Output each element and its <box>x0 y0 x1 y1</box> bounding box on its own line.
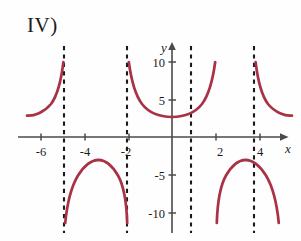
curve-branch-right-outer-upper <box>256 62 292 116</box>
y-axis-arrow <box>168 42 176 50</box>
y-tick-label-neg10: -10 <box>148 207 165 221</box>
x-tick-label-pos4: 4 <box>257 145 264 159</box>
y-axis-label: y <box>159 40 167 55</box>
y-tick-label-neg5: -5 <box>155 169 165 183</box>
x-axis-label: x <box>284 141 291 156</box>
x-tick-label-pos2: 2 <box>217 145 223 159</box>
x-axis <box>18 133 289 141</box>
curve-branch-left-inner-lower <box>65 160 127 223</box>
graph-plot: -6 -4 -2 2 4 10 5 -5 -10 y x <box>0 0 301 241</box>
curve-branch-left-outer-upper <box>27 62 63 116</box>
figure-container: IV) <box>0 0 301 241</box>
x-tick-label-neg6: -6 <box>36 145 46 159</box>
y-tick-label-pos10: 10 <box>153 56 166 70</box>
x-axis-arrow <box>280 133 289 141</box>
curve-branch-center-left-upper <box>129 62 172 117</box>
x-tick-label-neg4: -4 <box>80 145 91 159</box>
curve-branches <box>27 62 292 223</box>
curve-branch-right-inner-lower <box>217 160 279 223</box>
y-tick-label-pos5: 5 <box>159 94 165 108</box>
x-tick-label-neg2: -2 <box>121 145 131 159</box>
curve-branch-center-right-upper <box>172 62 215 117</box>
asymptote-lines <box>64 46 254 233</box>
